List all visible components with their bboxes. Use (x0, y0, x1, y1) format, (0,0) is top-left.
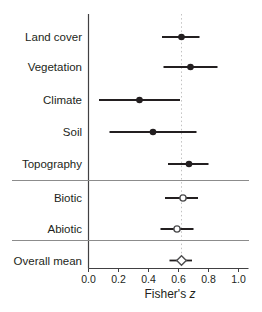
x-tick-label: 0.2 (111, 273, 126, 285)
x-axis-title: Fisher's z (145, 287, 196, 301)
mean-marker-open-circle (180, 195, 186, 201)
mean-marker-filled-circle (178, 34, 185, 41)
category-label: Land cover (25, 31, 82, 43)
category-label: Overall mean (14, 255, 82, 267)
forest-plot-figure: 0.00.20.40.60.81.0Fisher's zLand coverVe… (0, 0, 262, 312)
x-tick-label: 1.0 (231, 273, 246, 285)
category-label: Biotic (54, 192, 82, 204)
x-tick-label: 0.4 (141, 273, 156, 285)
category-label: Climate (43, 94, 82, 106)
mean-marker-filled-circle (186, 161, 193, 168)
mean-marker-filled-circle (136, 97, 143, 104)
x-tick-label: 0.8 (201, 273, 216, 285)
mean-marker-open-circle (174, 226, 180, 232)
category-label: Vegetation (28, 61, 82, 73)
x-tick-label: 0.6 (171, 273, 186, 285)
category-label: Abiotic (47, 223, 82, 235)
forest-plot: 0.00.20.40.60.81.0Fisher's zLand coverVe… (0, 0, 262, 312)
mean-marker-filled-circle (187, 64, 194, 71)
mean-marker-filled-circle (150, 129, 157, 136)
mean-marker-open-diamond (177, 256, 187, 266)
category-label: Soil (63, 126, 82, 138)
category-label: Topography (22, 158, 82, 170)
x-tick-label: 0.0 (81, 273, 96, 285)
